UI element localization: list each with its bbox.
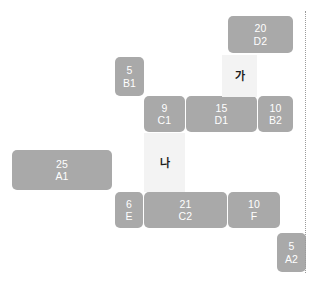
block-code: A2 <box>285 253 298 265</box>
block-quantity: 15 <box>215 102 227 114</box>
block-a1[interactable]: 25A1 <box>12 150 112 190</box>
block-code: F <box>251 210 258 222</box>
block-quantity: 21 <box>179 198 191 210</box>
block-e[interactable]: 6E <box>115 192 143 228</box>
block-quantity: 5 <box>126 64 132 76</box>
block-c1[interactable]: 9C1 <box>144 96 185 132</box>
block-quantity: 25 <box>56 158 68 170</box>
band-group-2[interactable]: 나 <box>144 133 185 192</box>
block-code: B2 <box>269 114 282 126</box>
block-code: B1 <box>123 77 136 89</box>
diagram-canvas: 20D25B19C115D110B225A16E21C210F5A2 가나 <box>0 0 318 283</box>
block-d2[interactable]: 20D2 <box>228 16 293 53</box>
block-code: A1 <box>55 170 68 182</box>
block-code: E <box>125 210 132 222</box>
band-group-1[interactable]: 가 <box>222 55 257 97</box>
block-quantity: 6 <box>126 198 132 210</box>
block-quantity: 10 <box>248 198 260 210</box>
block-b2[interactable]: 10B2 <box>258 96 293 132</box>
block-code: C2 <box>179 210 193 222</box>
block-f[interactable]: 10F <box>228 192 280 228</box>
block-code: D2 <box>254 35 268 47</box>
block-a2[interactable]: 5A2 <box>277 233 306 272</box>
block-quantity: 20 <box>254 22 266 34</box>
block-c2[interactable]: 21C2 <box>144 192 227 228</box>
block-code: D1 <box>215 114 229 126</box>
block-quantity: 10 <box>269 102 281 114</box>
band-label: 나 <box>160 154 170 170</box>
right-boundary-line <box>305 11 306 273</box>
block-code: C1 <box>158 114 172 126</box>
block-quantity: 9 <box>161 102 167 114</box>
block-b1[interactable]: 5B1 <box>115 57 144 96</box>
block-quantity: 5 <box>288 240 294 252</box>
band-label: 가 <box>235 67 245 83</box>
block-d1[interactable]: 15D1 <box>186 96 257 132</box>
